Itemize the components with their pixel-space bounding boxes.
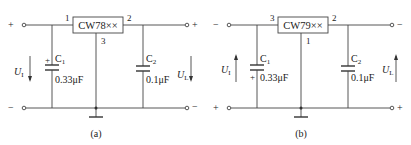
output-top-sign-a: + (192, 19, 198, 30)
arrow-down-icon (189, 76, 193, 82)
c2-name-b: C2 (351, 53, 362, 66)
c2-name-a: C2 (146, 53, 157, 66)
circuit-b: − + CW79×× 3 2 1 − + + C1 0.33μF (213, 13, 403, 140)
input-bottom-sign-b: + (213, 102, 219, 113)
pin-input-a: 1 (65, 13, 70, 23)
arrow-up-icon (394, 54, 398, 60)
output-bottom-sign-b: + (397, 102, 403, 113)
output-top-sign-b: − (397, 19, 403, 30)
c2-value-b: 0.1μF (351, 72, 375, 83)
output-voltage-label-a: UL (177, 69, 189, 82)
c1-value-a: 0.33μF (55, 74, 84, 85)
circuit-a: + − CW78×× 1 2 3 + − + C1 0.33μF (8, 13, 198, 140)
output-top-terminal-b (390, 23, 394, 27)
input-voltage-label-a: UI (14, 66, 24, 79)
output-top-terminal-a (185, 23, 189, 27)
c1-value-b: 0.33μF (260, 72, 289, 83)
input-bottom-terminal-a (22, 106, 26, 110)
pin-output-a: 2 (127, 13, 132, 23)
c1-polarity-a: + (45, 55, 50, 65)
pin-input-b: 3 (270, 13, 275, 23)
pin-ground-a: 3 (101, 36, 106, 46)
arrow-down-icon (28, 76, 32, 82)
input-top-terminal-a (22, 23, 26, 27)
caption-b: (b) (295, 128, 307, 140)
c1-name-b: C1 (260, 53, 271, 66)
input-bottom-sign-a: − (8, 102, 14, 113)
chip-label-a: CW78×× (78, 20, 117, 31)
output-voltage-label-b: UL (382, 64, 394, 77)
caption-a: (a) (90, 128, 101, 140)
input-top-terminal-b (227, 23, 231, 27)
c1-polarity-b: + (250, 72, 255, 82)
output-bottom-sign-a: − (192, 101, 198, 112)
output-bottom-terminal-b (390, 106, 394, 110)
output-bottom-terminal-a (185, 106, 189, 110)
c2-value-a: 0.1μF (146, 74, 170, 85)
input-voltage-label-b: UI (221, 64, 231, 77)
input-bottom-terminal-b (227, 106, 231, 110)
pin-output-b: 2 (332, 13, 337, 23)
input-top-sign-b: − (213, 19, 219, 30)
input-top-sign-a: + (8, 19, 14, 30)
c1-name-a: C1 (55, 53, 66, 66)
chip-label-b: CW79×× (283, 20, 322, 31)
arrow-up-icon (234, 54, 238, 60)
pin-ground-b: 1 (306, 36, 311, 46)
